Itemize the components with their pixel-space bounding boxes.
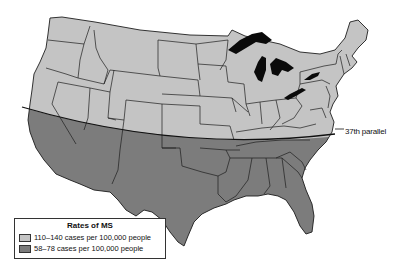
legend-swatch-light [19,234,31,242]
legend-item-low: 58–78 cases per 100,000 people [19,243,161,254]
legend: Rates of MS 110–140 cases per 100,000 pe… [14,218,166,259]
legend-swatch-dark [19,245,31,253]
parallel-label: 37th parallel [345,127,386,136]
legend-label-low: 58–78 cases per 100,000 people [34,244,143,253]
legend-label-high: 110–140 cases per 100,000 people [34,233,151,242]
legend-title: Rates of MS [19,221,161,230]
legend-item-high: 110–140 cases per 100,000 people [19,232,161,243]
